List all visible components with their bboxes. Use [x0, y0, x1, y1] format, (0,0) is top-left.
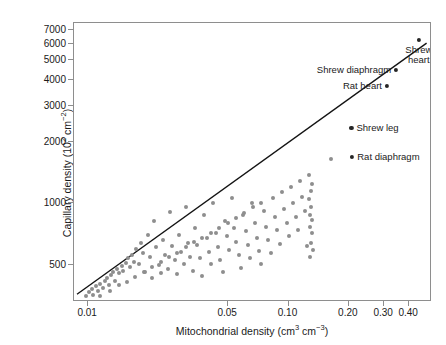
scatter-point [200, 236, 204, 240]
scatter-point [298, 179, 302, 183]
scatter-point [150, 276, 154, 280]
scatter-point [239, 266, 243, 270]
scatter-point [128, 265, 132, 269]
scatter-point [124, 261, 128, 265]
scatter-point [264, 225, 268, 229]
x-tick-mark [87, 301, 88, 306]
x-axis-title-text: Mitochondrial density (cm [176, 325, 295, 337]
scatter-point [146, 233, 150, 237]
y-tick-label: 1000 [44, 197, 66, 208]
scatter-point [175, 251, 179, 255]
scatter-point [150, 265, 154, 269]
scatter-point [108, 289, 112, 293]
scatter-point [226, 221, 230, 225]
scatter-point [300, 195, 304, 199]
scatter-point [246, 243, 250, 247]
scatter-point [184, 245, 188, 249]
point-annotation: Shrew leg [356, 123, 398, 133]
x-tick-label: 0.20 [338, 307, 357, 318]
scatter-point [232, 226, 236, 230]
scatter-point [309, 189, 313, 193]
point-annotation: Rat diaphragm [357, 152, 419, 162]
scatter-point [166, 267, 170, 271]
scatter-point [205, 236, 209, 240]
scatter-point [98, 294, 102, 298]
scatter-point [121, 269, 125, 273]
scatter-point [308, 225, 312, 229]
scatter-point [191, 269, 195, 273]
scatter-point [259, 262, 263, 266]
scatter-point [200, 274, 204, 278]
scatter-point [198, 256, 202, 260]
y-tick-label: 500 [49, 259, 66, 270]
scatter-point [259, 201, 263, 205]
scatter-point [177, 233, 181, 237]
scatter-point [275, 228, 279, 232]
scatter-point [137, 262, 141, 266]
scatter-point [273, 215, 277, 219]
scatter-point [308, 213, 312, 217]
scatter-point [139, 241, 143, 245]
capillary-vs-mitochondrial-density-chart: Capillary density (102 cm−2) Mitochondri… [0, 0, 446, 345]
y-axis-title-text: Capillary density (10 [61, 142, 73, 237]
scatter-point [262, 209, 266, 213]
scatter-point [287, 234, 291, 238]
scatter-point [311, 248, 315, 252]
scatter-point [307, 173, 311, 177]
scatter-point [175, 272, 179, 276]
y-tick-label: 7000 [44, 24, 66, 35]
scatter-point [280, 190, 284, 194]
scatter-point [91, 293, 95, 297]
scatter-point [142, 270, 146, 274]
scatter-point [207, 250, 211, 254]
plot-frame: ShrewheartShrew diaphragmRat heartShrew … [73, 22, 431, 301]
scatter-point [308, 255, 312, 259]
x-tick-label: 0.10 [278, 307, 297, 318]
scatter-point [133, 275, 137, 279]
point-annotation: Shrew diaphragm [317, 65, 391, 75]
scatter-point [310, 231, 314, 235]
scatter-point [186, 241, 190, 245]
scatter-point [161, 238, 165, 242]
scatter-point [310, 182, 314, 186]
scatter-point [113, 279, 117, 283]
y-axis-title-sup2: −2 [59, 112, 68, 121]
scatter-point [209, 262, 213, 266]
scatter-point [141, 251, 145, 255]
scatter-point [202, 213, 206, 217]
scatter-point [329, 157, 333, 161]
scatter-point [310, 218, 314, 222]
scatter-point [117, 283, 121, 287]
scatter-point [309, 241, 313, 245]
scatter-point [255, 236, 259, 240]
x-axis-title-sup2: −3 [316, 323, 325, 332]
scatter-point [125, 280, 129, 284]
scatter-point [182, 262, 186, 266]
scatter-point [168, 210, 172, 214]
x-tick-mark [227, 301, 228, 306]
y-tick-label: 6000 [44, 38, 66, 49]
scatter-point [221, 270, 225, 274]
scatter-point [253, 221, 257, 225]
scatter-point [209, 231, 213, 235]
scatter-point [309, 205, 313, 209]
scatter-point [289, 185, 293, 189]
x-tick-mark [348, 301, 349, 306]
x-tick-mark [383, 301, 384, 306]
x-axis-title-mid: cm [299, 325, 316, 337]
scatter-point [115, 267, 119, 271]
scatter-point [152, 219, 156, 223]
scatter-point [291, 201, 295, 205]
scatter-point [105, 276, 109, 280]
scatter-point [251, 205, 255, 209]
scatter-point [126, 256, 130, 260]
scatter-point [285, 221, 289, 225]
scatter-point [159, 260, 163, 264]
scatter-point [188, 255, 192, 259]
scatter-point [266, 238, 270, 242]
scatter-point [170, 244, 174, 248]
scatter-point [296, 228, 300, 232]
scatter-point [227, 248, 231, 252]
scatter-point [216, 245, 220, 249]
point-annotation: Rat heart [343, 80, 382, 90]
